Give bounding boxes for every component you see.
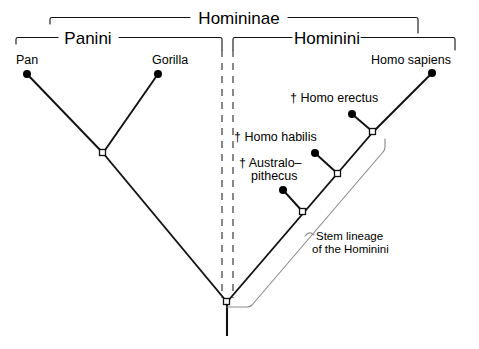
annotation-stem-lineage-line2: of the Hominini	[312, 243, 389, 255]
tip-dot-gorilla	[154, 70, 162, 78]
taxon-label-homo-erectus: † Homo erectus	[290, 91, 378, 105]
bracket-panini-left	[16, 38, 58, 45]
tip-dot-homo-habilis	[311, 149, 319, 157]
bracket-hominini-right	[361, 38, 455, 51]
node-homininae-root	[224, 299, 230, 305]
tip-dot-australopithecus	[279, 186, 287, 194]
clade-divider-dashed-lines	[222, 50, 233, 298]
node-hominini-3	[370, 129, 376, 135]
clade-label-hominini: Hominini	[294, 29, 360, 48]
tip-dot-homo-sapiens	[428, 69, 436, 77]
taxon-label-australopithecus-line1: † Australo–	[239, 156, 302, 170]
node-hominini-1	[300, 209, 306, 215]
tip-dot-pan	[23, 70, 31, 78]
node-panini-ancestor	[100, 150, 106, 156]
tree-branches	[27, 73, 432, 336]
branch-panini-stem	[103, 153, 227, 302]
annotation-stem-lineage: Stem lineage of the Hominini	[312, 230, 389, 255]
branch-gorilla	[103, 74, 158, 153]
stem-lineage-pointer-tick	[305, 233, 314, 236]
taxon-label-homo-sapiens: Homo sapiens	[371, 53, 451, 67]
node-hominini-2	[335, 171, 341, 177]
clade-label-panini: Panini	[64, 29, 111, 48]
bracket-panini-right	[119, 38, 222, 51]
tip-dot-homo-erectus	[348, 110, 356, 118]
clade-label-homininae: Homininae	[198, 9, 279, 28]
bracket-homininae-left	[50, 18, 190, 25]
cladogram-figure: Homininae Panini Hominini	[0, 0, 479, 349]
cladogram-svg: Homininae Panini Hominini	[0, 0, 479, 349]
taxon-label-gorilla: Gorilla	[152, 53, 188, 67]
internal-nodes	[100, 129, 376, 305]
taxon-label-pan: Pan	[16, 53, 38, 67]
taxon-label-australopithecus-line2: pithecus	[251, 169, 298, 183]
branch-pan	[27, 74, 103, 153]
bracket-panini: Panini	[16, 29, 222, 50]
bracket-hominini: Hominini	[233, 29, 455, 50]
annotation-stem-lineage-line1: Stem lineage	[316, 230, 383, 242]
bracket-hominini-left	[233, 38, 292, 51]
branch-homo-sapiens	[373, 73, 432, 132]
taxon-label-homo-habilis: † Homo habilis	[234, 130, 317, 144]
